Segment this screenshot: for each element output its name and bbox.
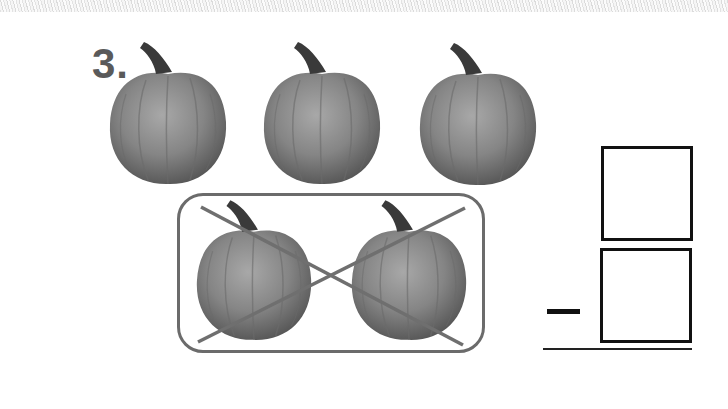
minus-icon xyxy=(547,309,580,314)
answer-underline xyxy=(543,348,692,350)
answer-box-bottom[interactable] xyxy=(600,248,692,343)
pumpkin-icon xyxy=(348,196,470,344)
pumpkin-icon xyxy=(193,196,315,344)
scanned-header-strip xyxy=(0,0,728,12)
answer-box-top[interactable] xyxy=(601,146,693,241)
pumpkin-icon xyxy=(260,38,384,188)
pumpkin-icon xyxy=(416,39,540,189)
pumpkin-icon xyxy=(106,38,230,188)
